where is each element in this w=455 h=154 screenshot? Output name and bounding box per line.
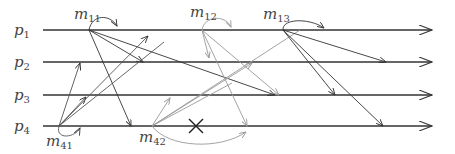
event-label-m42: m42 (139, 128, 166, 147)
messages-m13 (283, 21, 386, 126)
message-m12-p2 (202, 30, 209, 58)
process-label-p2: p2 (14, 53, 30, 72)
event-labels: m11 m12 m13 m41 m42 (46, 3, 290, 151)
message-m13-p4 (283, 30, 383, 126)
process-label-p3: p3 (14, 86, 30, 105)
event-label-m41: m41 (46, 132, 73, 151)
message-m42-p1 (152, 30, 300, 126)
message-m41-p1-a (59, 42, 164, 126)
process-label-p4: p4 (14, 117, 30, 136)
message-m42-p2b (152, 83, 232, 126)
message-passing-diagram: p1 p2 p3 p4 (0, 0, 455, 154)
message-m42-p3 (152, 98, 170, 126)
message-m11-p4 (89, 30, 131, 126)
messages-m12 (202, 18, 279, 126)
message-m13-p2 (283, 30, 386, 62)
event-label-m13: m13 (263, 5, 290, 24)
event-label-m12: m12 (190, 3, 217, 22)
messages-m42 (152, 30, 300, 144)
event-label-m11: m11 (74, 5, 101, 24)
process-label-p1: p1 (14, 21, 30, 40)
self-arrow-m41 (58, 126, 80, 136)
process-labels: p1 p2 p3 p4 (14, 21, 30, 136)
process-timelines (43, 30, 432, 126)
message-m12-p4 (202, 30, 247, 126)
message-m41-p1-b (59, 36, 148, 126)
